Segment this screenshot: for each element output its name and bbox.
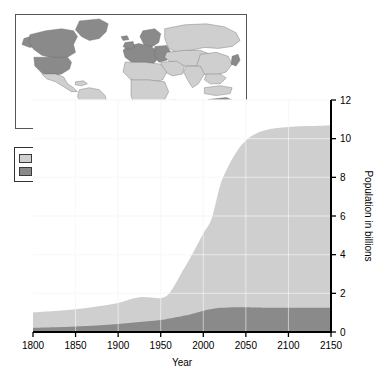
x-axis-tick-label: 1950 bbox=[150, 340, 173, 351]
population-figure: Less-developed countries More-developed … bbox=[0, 0, 380, 384]
y-axis-tick-label: 0 bbox=[340, 327, 346, 338]
x-axis-title: Year bbox=[172, 357, 193, 368]
x-axis-tick-label: 2000 bbox=[192, 340, 215, 351]
chart-svg: 0246810121800185019001950200020502100215… bbox=[0, 0, 380, 384]
x-axis-tick-label: 1900 bbox=[107, 340, 130, 351]
y-axis-title: Population in billions bbox=[363, 170, 374, 261]
x-axis-tick-label: 1850 bbox=[64, 340, 87, 351]
y-axis-tick-label: 10 bbox=[340, 133, 352, 144]
stacked-area-chart: 0246810121800185019001950200020502100215… bbox=[0, 0, 380, 384]
y-axis-tick-label: 4 bbox=[340, 249, 346, 260]
x-axis-tick-label: 2100 bbox=[277, 340, 300, 351]
y-axis-tick-label: 12 bbox=[340, 95, 352, 106]
y-axis-tick-label: 6 bbox=[340, 211, 346, 222]
y-axis-tick-label: 8 bbox=[340, 172, 346, 183]
y-axis-tick-label: 2 bbox=[340, 288, 346, 299]
x-axis-tick-label: 2150 bbox=[320, 340, 343, 351]
x-axis-tick-label: 2050 bbox=[235, 340, 258, 351]
x-axis-tick-label: 1800 bbox=[22, 340, 45, 351]
